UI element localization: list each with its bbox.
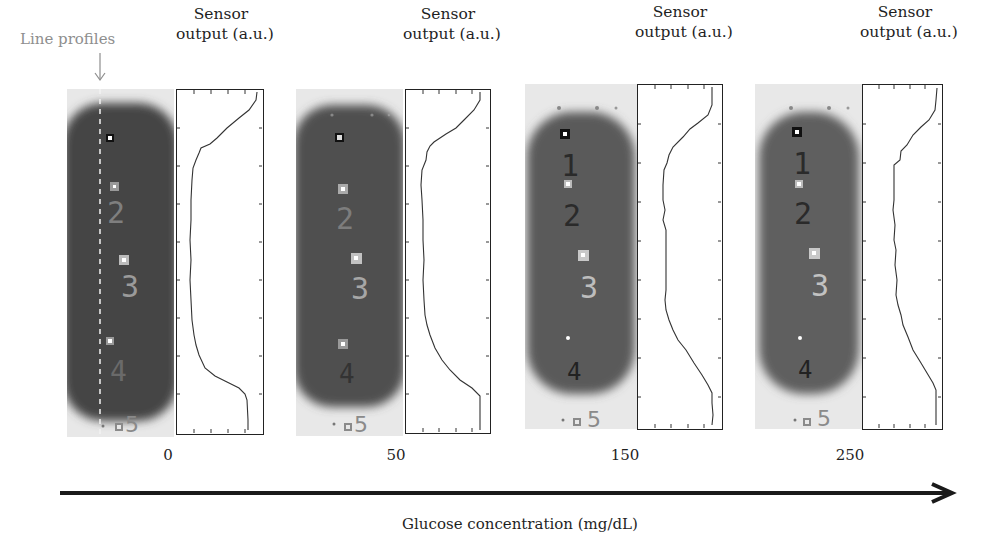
marker-3: 3 — [121, 269, 139, 304]
profile-curve — [863, 85, 941, 428]
marker-2: 2 — [563, 198, 581, 233]
marker-2: 2 — [794, 196, 812, 231]
x-axis-label: Glucose concentration (mg/dL) — [380, 515, 660, 533]
profile-curve — [177, 90, 262, 433]
line-profiles-label: Line profiles — [20, 30, 115, 48]
sensor-image-panel: 2 3 4 5 — [67, 89, 174, 437]
sensor-image-panel: 1 2 3 4 5 — [755, 84, 862, 429]
marker-3: 3 — [351, 271, 369, 306]
profile-curve — [406, 90, 489, 432]
title-line-1: Sensor — [176, 4, 266, 24]
title-line-1: Sensor — [403, 4, 493, 24]
line-profile-plot — [862, 84, 943, 430]
concentration-axis-arrow-icon — [60, 482, 960, 504]
marker-3: 3 — [580, 270, 598, 305]
line-profile-plot — [405, 89, 491, 434]
line-profile-plot — [637, 84, 723, 430]
marker-2: 2 — [336, 201, 354, 236]
title-line-1: Sensor — [635, 2, 725, 22]
title-line-2: output (a.u.) — [403, 24, 493, 44]
panel-title: Sensor output (a.u.) — [635, 2, 725, 42]
marker-4: 4 — [567, 358, 581, 386]
marker-3: 3 — [811, 268, 829, 303]
marker-5: 5 — [587, 407, 601, 429]
marker-4: 4 — [110, 355, 127, 388]
marker-5: 5 — [817, 406, 831, 429]
title-line-2: output (a.u.) — [860, 22, 950, 42]
marker-5: 5 — [125, 412, 139, 437]
title-line-2: output (a.u.) — [635, 22, 725, 42]
sensor-image-panel: 1 2 3 4 5 — [525, 84, 637, 429]
concentration-label: 150 — [595, 446, 655, 464]
title-line-2: output (a.u.) — [176, 24, 266, 44]
panel-title: Sensor output (a.u.) — [176, 4, 266, 44]
profile-curve — [638, 85, 721, 428]
marker-1: 1 — [793, 146, 811, 181]
concentration-label: 50 — [366, 446, 426, 464]
marker-5: 5 — [354, 412, 368, 436]
panel-title: Sensor output (a.u.) — [403, 4, 493, 44]
down-arrow-icon — [93, 52, 107, 82]
sensor-image-panel: 2 3 4 5 — [296, 89, 403, 436]
marker-2: 2 — [107, 195, 125, 230]
marker-4: 4 — [798, 356, 812, 384]
panel-title: Sensor output (a.u.) — [860, 2, 950, 42]
marker-1: 1 — [561, 148, 579, 183]
line-profile-plot — [176, 89, 264, 435]
concentration-label: 250 — [820, 446, 880, 464]
concentration-label: 0 — [138, 446, 198, 464]
title-line-1: Sensor — [860, 2, 950, 22]
marker-4: 4 — [339, 359, 355, 389]
